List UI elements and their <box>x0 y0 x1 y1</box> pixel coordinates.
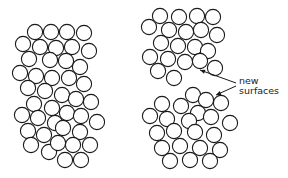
particle-circle <box>76 25 91 40</box>
particle-circle <box>166 123 181 138</box>
particle-circle <box>141 19 156 34</box>
particle-circle <box>206 127 221 142</box>
particle-circle <box>54 87 69 102</box>
intact-aggregate-group <box>12 24 104 167</box>
particle-circle <box>44 100 59 115</box>
arrowhead-icon <box>200 70 205 74</box>
particle-circle <box>81 43 96 58</box>
particle-circle <box>142 108 157 123</box>
particle-circle <box>213 95 228 110</box>
particle-circle <box>177 54 192 69</box>
particle-circle <box>15 36 30 51</box>
particle-circle <box>57 152 72 167</box>
particle-circle <box>153 35 168 50</box>
particle-circle <box>37 83 52 98</box>
particle-circle <box>73 152 88 167</box>
particle-circle <box>171 9 186 24</box>
particle-circle <box>12 65 27 80</box>
particle-circle <box>61 70 76 85</box>
label-line-surfaces: surfaces <box>239 86 279 96</box>
particle-circle <box>82 137 97 152</box>
particle-circle <box>59 105 74 120</box>
particle-circle <box>189 8 204 23</box>
new-surfaces-label: new surfaces <box>239 76 279 96</box>
particle-circle <box>83 94 98 109</box>
particle-circle <box>32 39 47 54</box>
particle-circle <box>65 137 80 152</box>
particle-circle <box>187 124 202 139</box>
particle-circle <box>192 53 207 68</box>
particle-circle <box>55 120 70 135</box>
particle-circle <box>193 22 208 37</box>
particle-circle <box>30 110 45 125</box>
particle-circle <box>150 63 165 78</box>
particle-circle <box>23 137 38 152</box>
particle-circle <box>162 153 177 168</box>
particle-circle <box>89 114 104 129</box>
particle-circle <box>149 125 164 140</box>
particle-circle <box>209 27 224 42</box>
particle-circle <box>170 38 185 53</box>
particle-circle <box>21 51 36 66</box>
particle-circle <box>76 76 91 91</box>
particle-circle <box>222 115 237 130</box>
particle-circle <box>64 39 79 54</box>
particle-circle <box>160 51 175 66</box>
particle-circle <box>50 135 65 150</box>
particle-circle <box>173 98 188 113</box>
particle-circle <box>178 24 193 39</box>
particle-circle <box>202 153 217 168</box>
particle-groups <box>12 8 237 168</box>
particle-circle <box>26 96 41 111</box>
particle-circle <box>43 24 58 39</box>
particle-circle <box>203 109 218 124</box>
particle-circle <box>205 9 220 24</box>
particle-circle <box>59 24 74 39</box>
particle-circle <box>36 127 51 142</box>
particle-circle <box>58 53 73 68</box>
particle-circle <box>42 52 57 67</box>
particle-circle <box>154 96 169 111</box>
particle-circle <box>14 107 29 122</box>
particle-circle <box>27 24 42 39</box>
fractured-lower-group <box>142 87 237 168</box>
particle-circle <box>142 49 157 64</box>
particle-circle <box>182 152 197 167</box>
particle-circle <box>166 70 181 85</box>
particle-circle <box>68 91 83 106</box>
particle-circle <box>73 108 88 123</box>
particle-circle <box>20 123 35 138</box>
particle-circle <box>192 140 207 155</box>
particle-circle <box>172 138 187 153</box>
particle-circle <box>20 80 35 95</box>
